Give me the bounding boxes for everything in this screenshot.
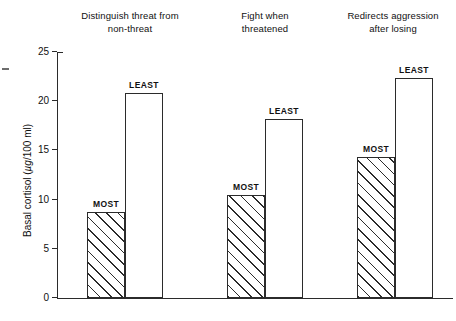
y-axis-line (57, 52, 58, 299)
group-title-line2: threatened (200, 23, 330, 36)
group-title-line1: Distinguish threat from (55, 10, 205, 23)
y-tick-label-0: 0 (23, 292, 49, 303)
y-tick-label-5: 5 (23, 243, 49, 254)
y-tick-20 (52, 100, 57, 101)
group-title-fight-when-threatened: Fight when threatened (200, 10, 330, 35)
y-tick-25 (52, 51, 57, 52)
bar-fight-when-least (265, 119, 303, 298)
bar-chart-figure: Distinguish threat from non-threat Fight… (0, 0, 456, 321)
bar-label-most: MOST (227, 182, 265, 192)
x-axis-line (57, 298, 453, 299)
y-tick-label-15: 15 (23, 144, 49, 155)
y-tick-10 (52, 199, 57, 200)
bar-label-least: LEAST (125, 80, 163, 90)
bar-label-least: LEAST (395, 65, 433, 75)
group-title-distinguish-threat: Distinguish threat from non-threat (55, 10, 205, 35)
group-title-line1: Redirects aggression (330, 10, 456, 23)
y-tick-5 (52, 248, 57, 249)
y-axis-top-cap (57, 52, 63, 53)
bar-label-least: LEAST (265, 106, 303, 116)
y-tick-label-25: 25 (23, 46, 49, 57)
y-tick-label-10: 10 (23, 194, 49, 205)
bar-fight-when-most (227, 195, 265, 298)
bar-distinguish-threat-from-least (125, 93, 163, 298)
y-tick-15 (52, 149, 57, 150)
bar-redirects-aggression-most (357, 157, 395, 298)
y-axis-label-unit: µg (22, 160, 33, 171)
bar-label-most: MOST (357, 144, 395, 154)
group-title-redirects-aggression: Redirects aggression after losing (330, 10, 456, 35)
y-tick-0 (52, 297, 57, 298)
bar-distinguish-threat-from-most (87, 212, 125, 298)
group-title-line2: after losing (330, 23, 456, 36)
group-title-line1: Fight when (200, 10, 330, 23)
group-title-line2: non-threat (55, 23, 205, 36)
bar-label-most: MOST (87, 199, 125, 209)
bar-redirects-aggression-least (395, 78, 433, 298)
scan-artifact-mark (2, 68, 9, 70)
y-tick-label-20: 20 (23, 95, 49, 106)
plot-area: MOSTLEASTMOSTLEASTMOSTLEAST (57, 52, 453, 298)
